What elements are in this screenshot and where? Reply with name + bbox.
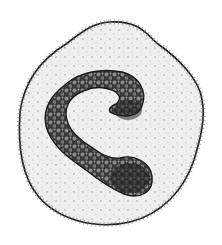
cell-drawing: [0, 0, 222, 245]
cell-illustration: Stippled black-and-white illustration of…: [0, 0, 222, 245]
